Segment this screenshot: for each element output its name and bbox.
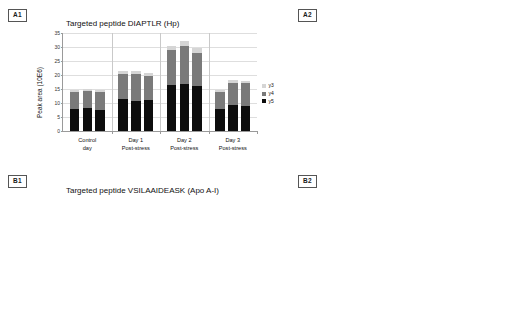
group-separator bbox=[112, 33, 113, 134]
bar bbox=[228, 80, 238, 131]
legend-label: y5 bbox=[269, 98, 274, 106]
x-axis-tick bbox=[160, 131, 161, 134]
bar bbox=[167, 46, 177, 131]
y-axis-tick bbox=[61, 117, 63, 118]
x-axis-group-label: Day 2Post-stress bbox=[170, 136, 198, 152]
y-axis-tick bbox=[61, 89, 63, 90]
panel-a1-y-axis-title: Peak area (10E6) bbox=[36, 67, 43, 118]
group-separator bbox=[160, 33, 161, 134]
panel-a1: A1 Targeted peptide DIAPTLR (Hp) Peak ar… bbox=[0, 0, 290, 166]
bar bbox=[83, 89, 93, 131]
y-axis-tick-label: 30 bbox=[54, 44, 60, 50]
y-axis-tick-label: 20 bbox=[54, 72, 60, 78]
y-axis-tick-label: 5 bbox=[57, 114, 60, 120]
legend-label: y4 bbox=[269, 90, 274, 98]
bar-segment-y4 bbox=[95, 92, 105, 109]
legend-item: y5 bbox=[262, 98, 274, 106]
bar-segment-y5 bbox=[83, 108, 93, 131]
panel-a1-plot-area: 05101520253035ControldayDay 1Post-stress… bbox=[62, 33, 257, 132]
x-axis-tick bbox=[209, 131, 210, 134]
x-axis-tick bbox=[257, 131, 258, 134]
bar-segment-y5 bbox=[180, 84, 190, 131]
y-axis-tick-label: 25 bbox=[54, 58, 60, 64]
bar-segment-y4 bbox=[215, 92, 225, 109]
x-axis-group-label: Day 1Post-stress bbox=[122, 136, 150, 152]
x-axis-group-label-line1: Day 1 bbox=[122, 136, 150, 144]
y-axis-tick bbox=[61, 103, 63, 104]
bar-segment-y4 bbox=[70, 92, 80, 109]
panel-a1-tag: A1 bbox=[8, 9, 27, 22]
panel-b1-title: Targeted peptide VSILAAIDEASK (Apo A-I) bbox=[66, 186, 219, 195]
bar-segment-y5 bbox=[118, 99, 128, 131]
bar bbox=[192, 48, 202, 131]
x-axis-group-label-line1: Day 2 bbox=[170, 136, 198, 144]
y-axis-tick bbox=[61, 47, 63, 48]
bar-segment-y4 bbox=[180, 46, 190, 84]
panel-b1: B1 Targeted peptide VSILAAIDEASK (Apo A-… bbox=[0, 165, 290, 331]
bar-segment-y4 bbox=[167, 50, 177, 85]
x-axis-group-label: Controlday bbox=[78, 136, 96, 152]
panel-b1-tag: B1 bbox=[8, 175, 27, 188]
legend-swatch-y4 bbox=[262, 92, 266, 96]
panel-a1-legend: y3y4y5 bbox=[262, 82, 274, 105]
bar-segment-y4 bbox=[241, 83, 251, 106]
x-axis-group-label-line2: Post-stress bbox=[170, 144, 198, 152]
bar-segment-y4 bbox=[144, 76, 154, 99]
panel-a2-tag: A2 bbox=[298, 9, 317, 22]
x-axis-group-label: Day 3Post-stress bbox=[219, 136, 247, 152]
legend-item: y3 bbox=[262, 82, 274, 90]
bar-segment-y4 bbox=[83, 91, 93, 109]
legend-swatch-y5 bbox=[262, 99, 266, 103]
bar-segment-y5 bbox=[228, 105, 238, 131]
panel-a1-title: Targeted peptide DIAPTLR (Hp) bbox=[66, 19, 179, 28]
bar bbox=[118, 71, 128, 131]
bar-segment-y5 bbox=[215, 109, 225, 131]
y-axis-tick bbox=[61, 61, 63, 62]
x-axis-group-label-line2: Post-stress bbox=[122, 144, 150, 152]
bar-segment-y5 bbox=[95, 110, 105, 131]
bar-segment-y5 bbox=[144, 100, 154, 131]
bar-segment-y5 bbox=[167, 85, 177, 131]
bar-segment-y4 bbox=[131, 74, 141, 101]
x-axis-tick bbox=[112, 131, 113, 134]
x-axis-group-label-line2: day bbox=[78, 144, 96, 152]
bar-segment-y5 bbox=[70, 109, 80, 131]
legend-item: y4 bbox=[262, 90, 274, 98]
panel-b2: B2 Ratio 0.000.501.001.502.002.50Control… bbox=[290, 165, 507, 331]
bar-segment-y5 bbox=[131, 101, 141, 132]
legend-swatch-y3 bbox=[262, 84, 266, 88]
y-axis-tick bbox=[61, 131, 63, 132]
y-axis-tick-label: 15 bbox=[54, 86, 60, 92]
bar bbox=[241, 81, 251, 131]
y-axis-tick bbox=[61, 33, 63, 34]
bar-segment-y4 bbox=[228, 83, 238, 105]
y-axis-tick-label: 35 bbox=[54, 30, 60, 36]
bar bbox=[95, 90, 105, 131]
bar-segment-y5 bbox=[192, 86, 202, 131]
bar-segment-y4 bbox=[192, 53, 202, 87]
bar bbox=[144, 73, 154, 131]
x-axis-group-label-line2: Post-stress bbox=[219, 144, 247, 152]
group-separator bbox=[209, 33, 210, 134]
x-axis-group-label-line1: Day 3 bbox=[219, 136, 247, 144]
bar-segment-y5 bbox=[241, 106, 251, 131]
bar bbox=[70, 90, 80, 131]
bar bbox=[215, 90, 225, 131]
y-axis-tick-label: 10 bbox=[54, 100, 60, 106]
panel-a2: A2 Ratio 0.500.751.001.251.50ControldayD… bbox=[290, 0, 507, 166]
x-axis-group-label-line1: Control bbox=[78, 136, 96, 144]
panel-b2-tag: B2 bbox=[298, 175, 317, 188]
figure-root: A1 Targeted peptide DIAPTLR (Hp) Peak ar… bbox=[0, 0, 507, 331]
y-axis-tick bbox=[61, 75, 63, 76]
y-axis-tick-label: 0 bbox=[57, 128, 60, 134]
bar bbox=[180, 41, 190, 131]
bar bbox=[131, 71, 141, 131]
bar-segment-y4 bbox=[118, 74, 128, 99]
legend-label: y3 bbox=[269, 82, 274, 90]
